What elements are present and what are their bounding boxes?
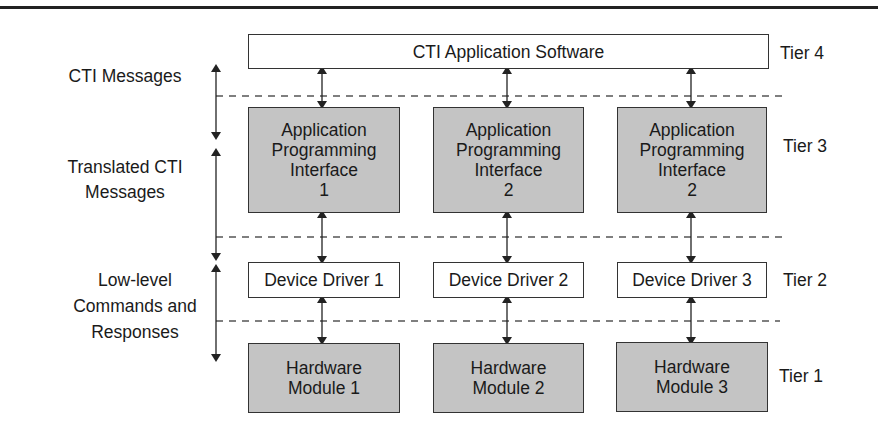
device-driver-label: Device Driver 2 <box>449 270 569 290</box>
hardware-box-line: Module 1 <box>288 378 360 398</box>
tier-4-label: Tier 4 <box>780 43 824 63</box>
api-box-line: 2 <box>504 180 514 200</box>
api-box-3: Application Programming Interface 2 <box>617 107 767 213</box>
left-label-line: CTI Messages <box>40 65 210 87</box>
hardware-box-line: Hardware <box>471 358 547 378</box>
api-box-line: Application <box>281 120 367 140</box>
hardware-module-box-2: Hardware Module 2 <box>433 343 584 413</box>
left-label-line: Translated CTI <box>40 155 210 180</box>
tier-1-label: Tier 1 <box>779 366 823 386</box>
api-box-line: Interface <box>474 160 542 180</box>
device-driver-label: Device Driver 1 <box>264 270 384 290</box>
api-box-line: Programming <box>271 140 376 160</box>
left-label-line: Commands and <box>55 293 215 319</box>
hardware-module-box-1: Hardware Module 1 <box>248 343 400 413</box>
device-driver-box-3: Device Driver 3 <box>617 262 767 298</box>
device-driver-box-1: Device Driver 1 <box>248 262 400 298</box>
tier-3-label: Tier 3 <box>783 136 827 156</box>
hardware-module-box-3: Hardware Module 3 <box>616 342 768 412</box>
api-box-1: Application Programming Interface 1 <box>248 107 400 213</box>
api-box-line: 1 <box>319 180 329 200</box>
hardware-box-line: Module 2 <box>473 378 545 398</box>
api-box-line: Application <box>649 120 735 140</box>
api-box-line: Programming <box>639 140 744 160</box>
api-box-line: 2 <box>687 180 697 200</box>
api-box-line: Application <box>466 120 552 140</box>
left-label-cti-messages: CTI Messages <box>40 65 210 87</box>
cti-application-software-box: CTI Application Software <box>248 34 769 69</box>
api-box-2: Application Programming Interface 2 <box>433 107 584 213</box>
hardware-box-line: Module 3 <box>656 377 728 397</box>
left-label-line: Messages <box>40 180 210 205</box>
api-box-line: Programming <box>456 140 561 160</box>
api-box-line: Interface <box>658 160 726 180</box>
device-driver-label: Device Driver 3 <box>632 270 752 290</box>
tier-2-label: Tier 2 <box>783 270 827 290</box>
left-label-line: Low-level <box>55 267 215 293</box>
left-label-low-level-commands: Low-level Commands and Responses <box>55 267 215 345</box>
hardware-box-line: Hardware <box>654 357 730 377</box>
left-label-line: Responses <box>55 319 215 345</box>
api-box-line: Interface <box>290 160 358 180</box>
device-driver-box-2: Device Driver 2 <box>433 262 584 298</box>
cti-application-software-label: CTI Application Software <box>413 42 605 62</box>
left-label-translated-cti-messages: Translated CTI Messages <box>40 155 210 205</box>
hardware-box-line: Hardware <box>286 358 362 378</box>
